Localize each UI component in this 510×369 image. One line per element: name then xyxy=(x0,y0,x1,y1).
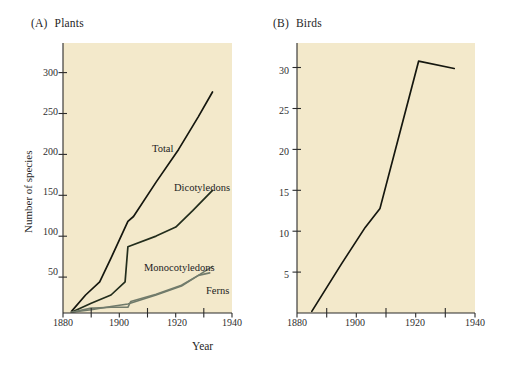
panel-b-ytick-10: 10 xyxy=(259,228,289,239)
panel-b-xtick-1940: 1940 xyxy=(455,317,495,328)
panel-b-xtick-1880: 1880 xyxy=(277,317,317,328)
panel-b-ytick-5: 5 xyxy=(259,269,289,280)
shared-xlabel: Year xyxy=(192,340,213,352)
panel-b-xtick-1920: 1920 xyxy=(395,317,435,328)
panel-b-xtick-1900: 1900 xyxy=(335,317,375,328)
panel-b-ytick-25: 25 xyxy=(259,105,289,116)
series-label-dicotyledons: Dicotyledons xyxy=(174,182,230,193)
panel-plants: (A)Plants Number of species 300 250 200 … xyxy=(0,0,255,369)
panel-a-ytick-200: 200 xyxy=(28,146,58,157)
panel-a-xtick-1880: 1880 xyxy=(43,317,83,328)
panel-a-tag: (A) xyxy=(31,17,48,29)
panel-a-xtick-1940: 1940 xyxy=(212,317,252,328)
series-label-total: Total xyxy=(152,143,173,154)
series-label-monocotyledons: Monocotyledons xyxy=(144,262,215,273)
panel-a-ytick-150: 150 xyxy=(28,186,58,197)
figure-root: (A)Plants Number of species 300 250 200 … xyxy=(0,0,510,369)
panel-birds: (B)Birds 30 25 20 15 10 5 1880 1900 1920… xyxy=(255,0,510,369)
panel-a-ytick-250: 250 xyxy=(28,106,58,117)
panel-b-ytick-30: 30 xyxy=(259,65,289,76)
series-line-birds xyxy=(312,61,454,311)
panel-b-svg xyxy=(297,43,475,313)
panel-b-ytick-20: 20 xyxy=(259,146,289,157)
panel-b-tag: (B) xyxy=(273,17,289,29)
panel-b-title: (B)Birds xyxy=(273,17,322,29)
panel-b-plot-area xyxy=(297,43,475,313)
panel-a-xtick-1920: 1920 xyxy=(157,317,197,328)
panel-a-title-text: Plants xyxy=(55,17,84,29)
series-label-ferns: Ferns xyxy=(206,285,229,296)
panel-a-xtick-1900: 1900 xyxy=(99,317,139,328)
panel-a-ytick-50: 50 xyxy=(28,266,58,277)
series-line-total xyxy=(72,92,213,311)
panel-a-ytick-100: 100 xyxy=(28,226,58,237)
series-line-dicotyledons xyxy=(72,190,213,312)
panel-a-ytick-300: 300 xyxy=(28,67,58,78)
panel-a-title: (A)Plants xyxy=(31,17,84,29)
panel-b-ytick-15: 15 xyxy=(259,187,289,198)
series-line-ferns xyxy=(72,273,210,312)
panel-b-title-text: Birds xyxy=(296,17,322,29)
